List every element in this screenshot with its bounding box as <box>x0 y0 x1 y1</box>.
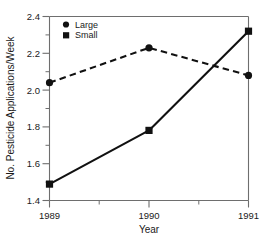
data-point-small-1991 <box>245 28 252 35</box>
x-axis-major-ticks <box>50 201 249 208</box>
legend-marker-square-icon <box>63 32 69 38</box>
y-tick-label: 1.6 <box>27 158 40 169</box>
legend-label-large: Large <box>75 20 98 30</box>
chart-legend: Large Small <box>63 20 98 40</box>
series-small <box>46 28 252 188</box>
y-tick-label: 2.4 <box>27 11 40 22</box>
x-tick-label: 1990 <box>138 210 159 221</box>
x-axis-title: Year <box>139 224 160 235</box>
data-point-large-1989 <box>46 79 53 86</box>
axis-frame <box>50 17 249 201</box>
pesticide-applications-line-chart: 1.4 1.6 1.8 2.0 2.2 2.4 1989 1990 1991 Y… <box>0 0 274 240</box>
series-large <box>46 44 252 86</box>
y-tick-label: 2.2 <box>27 48 40 59</box>
y-tick-label: 2.0 <box>27 85 40 96</box>
chart-canvas: 1.4 1.6 1.8 2.0 2.2 2.4 1989 1990 1991 Y… <box>0 0 274 240</box>
x-tick-label: 1989 <box>39 210 60 221</box>
y-axis-minor-ticks <box>46 35 50 182</box>
legend-marker-circle-icon <box>63 21 69 27</box>
data-point-large-1991 <box>245 72 252 79</box>
legend-label-small: Small <box>75 30 98 40</box>
y-axis-title: No. Pesticide Applications/Week <box>5 35 16 179</box>
y-tick-labels: 1.4 1.6 1.8 2.0 2.2 2.4 <box>27 11 40 206</box>
y-tick-label: 1.8 <box>27 121 40 132</box>
data-point-large-1990 <box>145 44 152 51</box>
series-small-line <box>50 31 249 184</box>
x-tick-labels: 1989 1990 1991 <box>39 210 259 221</box>
series-large-line <box>50 48 249 83</box>
data-point-small-1989 <box>46 181 53 188</box>
data-point-small-1990 <box>145 127 152 134</box>
x-tick-label: 1991 <box>238 210 259 221</box>
y-tick-label: 1.4 <box>27 195 40 206</box>
